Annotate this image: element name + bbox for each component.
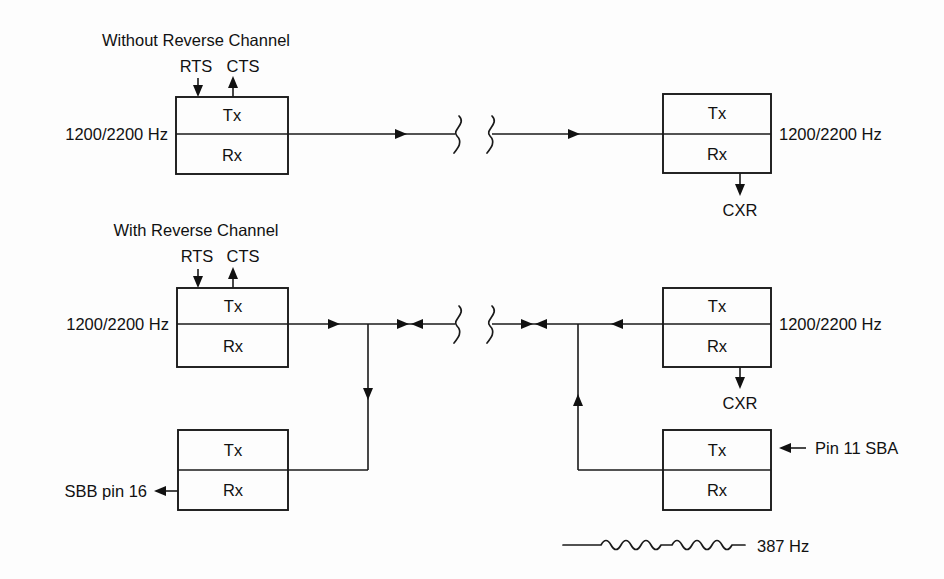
link-bottom-left-segment	[288, 319, 455, 329]
left-modem-bottom-tx-label: Tx	[224, 297, 243, 315]
rts-arrow-top	[193, 78, 203, 97]
signal-label-cts-bottom: CTS	[227, 247, 260, 265]
sbb-pin-16-label: SBB pin 16	[64, 482, 147, 500]
left-modem-bottom: Tx Rx	[177, 288, 288, 367]
right-modem-top-tx-label: Tx	[708, 104, 727, 122]
signal-label-cts-top: CTS	[227, 57, 260, 75]
left-modem-bottom-rx-label: Rx	[223, 337, 244, 355]
right-modem-bottom: Tx Rx	[663, 288, 771, 367]
reverse-riser-right	[573, 324, 663, 470]
right-modem-bottom-frequency-label: 1200/2200 Hz	[779, 315, 882, 333]
legend-387hz: 387 Hz	[563, 537, 809, 555]
reverse-drop-left	[288, 324, 373, 470]
left-modem-top-rx-label: Rx	[222, 146, 243, 164]
rts-arrow-bottom	[193, 269, 203, 288]
left-reverse-modem: Tx Rx	[178, 430, 288, 510]
left-modem-top-tx-label: Tx	[223, 106, 242, 124]
right-modem-top: Tx Rx	[663, 94, 771, 173]
right-reverse-modem-rx-label: Rx	[707, 481, 728, 499]
left-reverse-modem-tx-label: Tx	[224, 441, 243, 459]
section-with-reverse-channel: With Reverse Channel RTS CTS Tx Rx 1200/…	[64, 221, 898, 510]
right-modem-bottom-tx-label: Tx	[708, 297, 727, 315]
legend-387hz-label: 387 Hz	[757, 537, 809, 555]
right-reverse-modem: Tx Rx	[663, 430, 771, 510]
section-without-reverse-channel: Without Reverse Channel RTS CTS Tx Rx 1	[65, 31, 882, 219]
cts-arrow-top	[228, 76, 238, 97]
left-modem-bottom-frequency-label: 1200/2200 Hz	[66, 315, 169, 333]
cts-arrow-bottom	[228, 267, 238, 288]
section-title-with-reverse-channel: With Reverse Channel	[113, 221, 278, 239]
signal-label-rts-bottom: RTS	[181, 247, 214, 265]
left-modem-top-frequency-label: 1200/2200 Hz	[65, 125, 168, 143]
right-reverse-modem-tx-label: Tx	[708, 441, 727, 459]
right-modem-top-frequency-label: 1200/2200 Hz	[779, 125, 882, 143]
left-reverse-modem-rx-label: Rx	[223, 481, 244, 499]
pin-11-sba-label: Pin 11 SBA	[815, 439, 898, 457]
right-modem-top-rx-label: Rx	[707, 145, 728, 163]
right-modem-bottom-rx-label: Rx	[707, 337, 728, 355]
link-top-right-segment	[492, 129, 663, 139]
modem-reverse-channel-diagram: Without Reverse Channel RTS CTS Tx Rx 1	[0, 0, 944, 579]
link-break-symbol-top	[454, 116, 494, 153]
link-top-left-segment	[288, 129, 455, 139]
sba-arrow	[779, 443, 806, 453]
section-title-without-reverse-channel: Without Reverse Channel	[102, 31, 290, 49]
cxr-label-bottom: CXR	[723, 394, 758, 412]
cxr-arrow-bottom	[735, 367, 745, 389]
signal-label-rts-top: RTS	[180, 57, 213, 75]
left-modem-top: Tx Rx	[176, 97, 288, 174]
cxr-label-top: CXR	[723, 201, 758, 219]
sbb-arrow	[154, 486, 178, 496]
link-break-symbol-bottom	[454, 306, 494, 343]
diagram-canvas: Without Reverse Channel RTS CTS Tx Rx 1	[0, 0, 944, 579]
cxr-arrow-top	[735, 173, 745, 196]
